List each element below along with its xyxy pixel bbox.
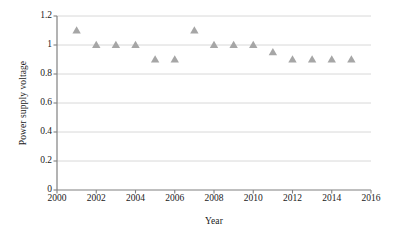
- data-points: [72, 26, 355, 62]
- data-point-marker: [288, 55, 296, 62]
- data-point-marker: [72, 26, 80, 33]
- data-point-marker: [112, 41, 120, 48]
- x-axis-tick-label: 2000: [35, 194, 79, 204]
- gridlines: [57, 16, 371, 161]
- data-point-marker: [151, 55, 159, 62]
- data-point-marker: [210, 41, 218, 48]
- data-point-marker: [308, 55, 316, 62]
- data-point-marker: [190, 26, 198, 33]
- data-point-marker: [249, 41, 257, 48]
- x-axis-tick-label: 2016: [349, 194, 393, 204]
- data-point-marker: [131, 41, 139, 48]
- data-point-marker: [171, 55, 179, 62]
- x-axis-tick-label: 2008: [192, 194, 236, 204]
- x-axis-tick-label: 2006: [153, 194, 197, 204]
- data-point-marker: [347, 55, 355, 62]
- x-axis-tick-label: 2002: [74, 194, 118, 204]
- data-point-marker: [328, 55, 336, 62]
- x-axis-tick-label: 2004: [114, 194, 158, 204]
- data-point-marker: [229, 41, 237, 48]
- data-point-marker: [92, 41, 100, 48]
- x-axis-title: Year: [57, 216, 371, 226]
- scatter-chart: Power supply voltage 00.20.40.60.811.2 2…: [0, 0, 399, 239]
- x-axis-tick-label: 2010: [231, 194, 275, 204]
- data-point-marker: [269, 48, 277, 55]
- x-axis-tick-label: 2014: [310, 194, 354, 204]
- x-axis-tick-label: 2012: [271, 194, 315, 204]
